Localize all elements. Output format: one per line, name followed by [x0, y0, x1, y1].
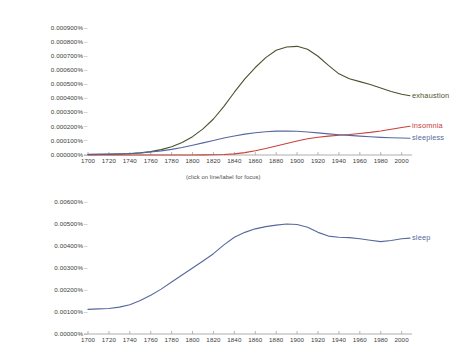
- y-tick-label: 0.000800%: [51, 39, 83, 45]
- x-tick-label: 1920: [307, 337, 329, 343]
- y-tick-mark: –: [84, 67, 87, 73]
- y-tick-mark: –: [84, 137, 87, 143]
- y-tick-mark: –: [84, 95, 87, 101]
- y-tick-mark: –: [84, 221, 87, 227]
- x-tick-label: 1940: [328, 337, 350, 343]
- x-tick-label: 1860: [244, 337, 266, 343]
- ngram-chart-top: 0.000000%–0.000100%–0.000200%–0.000300%–…: [0, 0, 464, 190]
- x-tick-label: 1800: [182, 158, 204, 164]
- x-tick-label: 1880: [265, 158, 287, 164]
- y-tick-label: 0.00200%: [54, 287, 83, 293]
- y-tick-label: 0.00600%: [54, 199, 83, 205]
- x-tick-label: 1840: [223, 158, 245, 164]
- x-tick-label: 1720: [98, 337, 120, 343]
- series-label-exhaustion[interactable]: exhaustion: [412, 92, 449, 100]
- x-tick-label: 1980: [370, 337, 392, 343]
- y-tick-mark: –: [84, 109, 87, 115]
- x-tick-label: 1900: [286, 337, 308, 343]
- y-tick-label: 0.00100%: [54, 309, 83, 315]
- series-line-sleepless[interactable]: [88, 131, 410, 154]
- x-tick-label: 1960: [349, 337, 371, 343]
- y-tick-mark: –: [84, 199, 87, 205]
- x-tick-label: 2000: [391, 158, 413, 164]
- y-tick-label: 0.000400%: [51, 95, 83, 101]
- focus-hint: (click on line/label for focus): [186, 174, 261, 180]
- y-tick-label: 0.000600%: [51, 67, 83, 73]
- x-tick-label: 1920: [307, 158, 329, 164]
- y-tick-label: 0.000200%: [51, 124, 83, 130]
- y-tick-label: 0.00400%: [54, 243, 83, 249]
- y-tick-mark: –: [84, 25, 87, 31]
- y-tick-label: 0.000300%: [51, 109, 83, 115]
- x-tick-label: 1860: [244, 158, 266, 164]
- x-tick-label: 2000: [391, 337, 413, 343]
- y-tick-label: 0.000500%: [51, 81, 83, 87]
- y-tick-label: 0.00500%: [54, 221, 83, 227]
- plot-area-bottom[interactable]: 0.00000%–0.00100%–0.00200%–0.00300%–0.00…: [0, 190, 464, 356]
- x-tick-label: 1700: [77, 337, 99, 343]
- series-label-sleep[interactable]: sleep: [412, 234, 430, 242]
- series-line-sleep[interactable]: [88, 224, 410, 309]
- x-tick-label: 1840: [223, 337, 245, 343]
- x-tick-label: 1740: [119, 158, 141, 164]
- x-tick-label: 1700: [77, 158, 99, 164]
- x-tick-label: 1960: [349, 158, 371, 164]
- x-tick-label: 1720: [98, 158, 120, 164]
- ngram-chart-bottom: 0.00000%–0.00100%–0.00200%–0.00300%–0.00…: [0, 190, 464, 356]
- y-tick-label: 0.000700%: [51, 53, 83, 59]
- x-tick-label: 1760: [140, 337, 162, 343]
- x-tick-label: 1940: [328, 158, 350, 164]
- y-tick-mark: –: [84, 123, 87, 129]
- y-tick-mark: –: [84, 309, 87, 315]
- x-tick-label: 1740: [119, 337, 141, 343]
- series-label-insomnia[interactable]: insomnia: [412, 122, 443, 130]
- x-tick-label: 1820: [202, 337, 224, 343]
- x-tick-label: 1820: [202, 158, 224, 164]
- x-tick-label: 1800: [182, 337, 204, 343]
- y-tick-label: 0.00300%: [54, 265, 83, 271]
- x-tick-label: 1780: [161, 337, 183, 343]
- y-tick-mark: –: [84, 81, 87, 87]
- y-tick-label: 0.000100%: [51, 138, 83, 144]
- x-tick-label: 1900: [286, 158, 308, 164]
- y-tick-mark: –: [84, 53, 87, 59]
- series-label-sleepless[interactable]: sleepless: [412, 134, 444, 142]
- x-tick-label: 1760: [140, 158, 162, 164]
- y-tick-mark: –: [84, 39, 87, 45]
- series-line-insomnia[interactable]: [88, 126, 410, 155]
- plot-area-top[interactable]: 0.000000%–0.000100%–0.000200%–0.000300%–…: [0, 0, 464, 190]
- y-tick-mark: –: [84, 265, 87, 271]
- x-tick-label: 1880: [265, 337, 287, 343]
- x-tick-label: 1980: [370, 158, 392, 164]
- y-tick-mark: –: [84, 243, 87, 249]
- y-tick-label: 0.000900%: [51, 25, 83, 31]
- y-tick-mark: –: [84, 287, 87, 293]
- series-line-exhaustion[interactable]: [88, 46, 410, 154]
- x-tick-label: 1780: [161, 158, 183, 164]
